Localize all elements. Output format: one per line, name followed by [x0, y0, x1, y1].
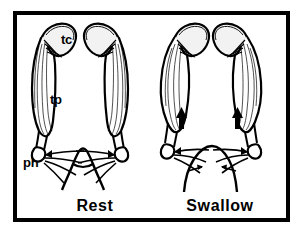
caption-swallow: Swallow: [186, 197, 253, 214]
pterygoid-hamulus-right: [248, 144, 261, 158]
anatomical-figure: Rest: [0, 0, 303, 234]
label-ph: ph: [23, 155, 39, 170]
caption-rest: Rest: [76, 197, 113, 214]
label-tc: tc: [61, 32, 72, 47]
pterygoid-hamulus-left: [161, 144, 174, 158]
pterygoid-hamulus-right: [115, 147, 128, 161]
figure-canvas: Rest: [0, 0, 303, 234]
label-tp: tp: [50, 92, 62, 107]
